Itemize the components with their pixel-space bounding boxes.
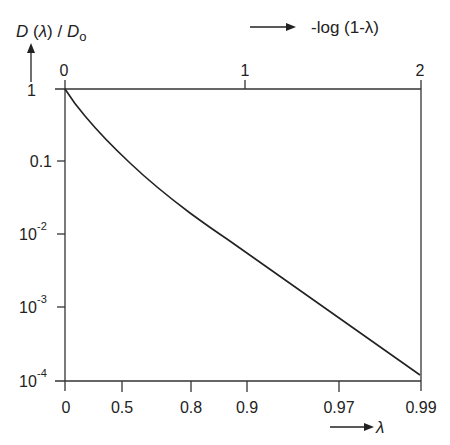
data-curve [65,89,420,375]
svg-text:10: 10 [19,299,37,316]
y-axis-title: D (λ) / Do [16,22,86,44]
svg-text:D (λ) / Do: D (λ) / Do [16,22,86,44]
x-bottom-ticks [122,381,339,392]
svg-text:10: 10 [19,226,37,243]
x-axis-title: λ [375,418,384,437]
x-tick-label-0.5: 0.5 [111,399,133,416]
y-ticks [57,161,65,307]
y-tick-label-0.1: 0.1 [30,153,52,170]
x2-axis-title: -log (1-λ) [311,18,379,37]
svg-text:10: 10 [19,373,37,390]
x-tick-label-0.99: 0.99 [405,399,436,416]
x2-tick-label-2: 2 [416,62,425,79]
y-tick-label-1: 1 [27,82,36,99]
x-axis-arrow-icon [330,423,374,431]
svg-text:-3: -3 [37,293,47,305]
x-tick-label-0.9: 0.9 [236,399,258,416]
x2-tick-label-1: 1 [241,62,250,79]
x2-axis-arrow-icon [250,23,296,31]
x-tick-label-0.8: 0.8 [180,399,202,416]
y-tick-label-1e-2: 10 -2 [19,220,47,243]
svg-text:-2: -2 [37,220,47,232]
x-tick-label-0.97: 0.97 [323,399,354,416]
x-tick-label-0: 0 [62,399,71,416]
svg-text:-4: -4 [37,367,47,379]
y-axis-arrow-icon [27,43,35,82]
y-tick-label-1e-3: 10 -3 [19,293,47,316]
chart-canvas: 1 0.1 10 -2 10 -3 10 -4 0 0.5 0.8 0.9 0.… [0,0,450,445]
x2-tick-label-0: 0 [60,62,69,79]
y-tick-label-1e-4: 10 -4 [19,367,47,390]
